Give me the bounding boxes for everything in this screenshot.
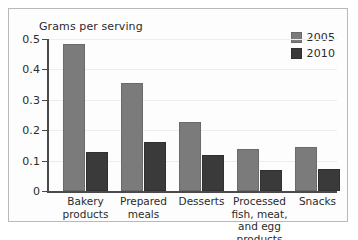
- tick-mark: [42, 100, 48, 101]
- y-tick-label: 0.3: [22, 93, 40, 106]
- plot-area: 0.5 0.4 0.3 0.2 0.1 0: [47, 39, 337, 191]
- y-axis-title: Grams per serving: [39, 20, 143, 33]
- tick-mark: [42, 161, 48, 162]
- bar-2005-4[interactable]: [295, 147, 317, 191]
- bar-2005-3[interactable]: [237, 149, 259, 191]
- bar-2010-3[interactable]: [260, 170, 282, 191]
- y-tick-label: 0.5: [22, 33, 40, 46]
- y-tick-label: 0.1: [22, 154, 40, 167]
- bar-group-0: Bakery products: [63, 39, 108, 191]
- bar-2010-0[interactable]: [86, 152, 108, 191]
- y-tick-label: 0.2: [22, 124, 40, 137]
- chart-figure: Grams per serving 2005 2010 0.5 0.4 0.3: [8, 8, 348, 222]
- bar-2005-1[interactable]: [121, 83, 143, 191]
- bar-2010-1[interactable]: [144, 142, 166, 191]
- x-axis-line: [47, 191, 337, 193]
- bar-group-1: Prepared meals: [121, 39, 166, 191]
- y-axis-line: [47, 39, 49, 191]
- bar-group-4: Snacks: [295, 39, 340, 191]
- tick-mark: [42, 130, 48, 131]
- y-tick-label: 0: [33, 185, 40, 198]
- y-tick-label: 0.4: [22, 63, 40, 76]
- x-category-label-4: Snacks: [281, 195, 354, 208]
- tick-mark: [42, 39, 48, 40]
- bar-2010-4[interactable]: [318, 169, 340, 192]
- bar-2010-2[interactable]: [202, 155, 224, 191]
- bar-2005-2[interactable]: [179, 122, 201, 191]
- bar-group-2: Desserts: [179, 39, 224, 191]
- tick-mark: [42, 191, 48, 192]
- bar-2005-0[interactable]: [63, 44, 85, 191]
- bar-group-3: Processed fish, meat, and egg products: [237, 39, 282, 191]
- tick-mark: [42, 69, 48, 70]
